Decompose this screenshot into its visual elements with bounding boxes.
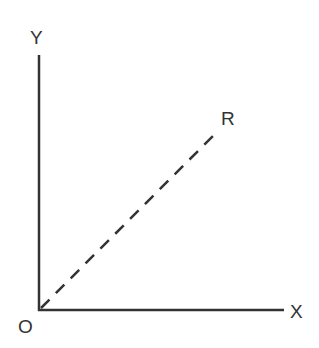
diagram-canvas: Y X O R [0, 0, 319, 348]
y-axis-label: Y [30, 27, 43, 48]
x-axis-label: X [290, 301, 303, 322]
ray-or-dashed [41, 135, 214, 308]
point-r-label: R [221, 108, 235, 129]
origin-label: O [18, 316, 33, 337]
